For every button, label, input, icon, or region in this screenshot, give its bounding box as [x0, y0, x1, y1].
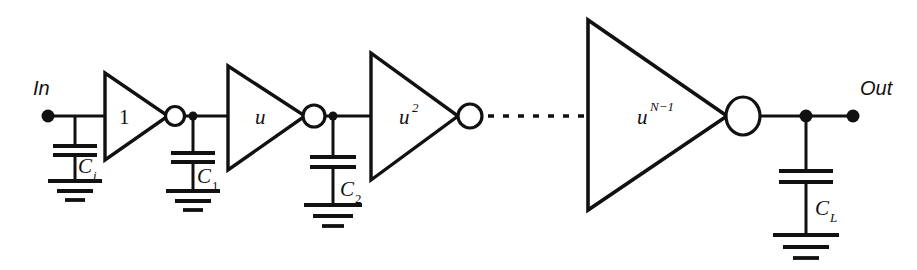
inverter-1-triangle[interactable] — [105, 73, 168, 160]
inverter-3-gain-exponent: 2 — [412, 100, 419, 115]
inverter-3-bubble — [458, 104, 482, 128]
capacitor-cl-label: C L — [815, 196, 837, 225]
capacitor-cl — [773, 116, 839, 258]
inverter-n-triangle[interactable] — [588, 20, 727, 210]
inverter-1-gain-label: 1 — [119, 105, 130, 129]
capacitor-ci-label: C i — [78, 154, 97, 183]
inverter-3-triangle[interactable] — [371, 53, 458, 180]
capacitor-c2-subscript: 2 — [355, 191, 362, 206]
inverter-n-gain-base: u — [637, 105, 648, 129]
capacitor-c2-name: C — [340, 177, 355, 201]
inverter-chain-schematic: In Out 1 u u 2 u N−1 C i C 1 C 2 C L — [0, 0, 917, 270]
capacitor-c1-subscript: 1 — [212, 178, 219, 193]
capacitor-c2-label: C 2 — [340, 177, 362, 206]
output-terminal-dot — [847, 110, 860, 123]
inverter-n-bubble — [726, 97, 760, 135]
output-port-label: Out — [860, 77, 894, 99]
input-terminal-dot — [42, 110, 55, 123]
capacitor-ci — [48, 116, 102, 200]
capacitor-ci-subscript: i — [93, 168, 97, 183]
inverter-3-gain-base: u — [399, 105, 410, 129]
capacitor-c1-label: C 1 — [197, 164, 219, 193]
inverter-2-gain-label: u — [255, 105, 266, 129]
input-net — [42, 110, 106, 123]
capacitor-cl-name: C — [815, 196, 830, 220]
capacitor-ci-name: C — [78, 154, 93, 178]
capacitor-c1 — [166, 116, 220, 210]
stage-n-group — [588, 20, 760, 210]
capacitor-cl-subscript: L — [829, 210, 837, 225]
inverter-1-bubble — [166, 107, 185, 126]
stage-3-group — [304, 53, 482, 226]
inverter-2-bubble — [303, 105, 325, 127]
inverter-n-gain-exponent: N−1 — [649, 99, 674, 114]
circuit-diagram-canvas: In Out 1 u u 2 u N−1 C i C 1 C 2 C L — [0, 0, 917, 270]
capacitor-c1-name: C — [197, 164, 212, 188]
output-net — [760, 110, 860, 259]
capacitor-c2 — [304, 116, 362, 226]
input-port-label: In — [33, 77, 50, 99]
inverter-2-triangle[interactable] — [228, 66, 305, 170]
